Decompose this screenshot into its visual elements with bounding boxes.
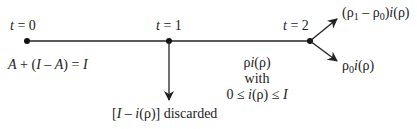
symbol-a: A [8,57,17,72]
time-eq: = 1 [160,18,182,33]
text-part: – [41,57,55,72]
time-label-t0: t = 0 [10,18,36,34]
lower-branch-arrow [310,41,337,61]
time-eq: = 2 [287,18,309,33]
text-part: (ρ) [254,55,270,70]
text-part: (ρ) [358,58,374,73]
text-part: ) = [63,57,83,72]
text-part: – [121,106,135,121]
lower-branch-label: ρ0i(ρ) [342,58,374,74]
retained-amount-label: ρi(ρ) with 0 ≤ i(ρ) ≤ I [212,55,302,103]
time-label-t2: t = 2 [283,18,309,34]
upper-branch-label: (ρ1 – ρ0)i(ρ) [342,5,410,21]
initial-identity-label: A + (I – A) = I [8,57,88,73]
discarded-label: [I – i(ρ)] discarded [112,106,217,122]
text-part: (ρ) ≤ [252,87,283,102]
text-part: discarded [160,106,217,121]
text-part: 0 ≤ [226,87,248,102]
retained-line2: with [212,71,302,87]
text-part: ρ [342,58,349,73]
node-t0-dot [24,38,30,44]
symbol-i: I [83,57,88,72]
text-part: – ρ [359,5,380,20]
retained-line1: ρi(ρ) [212,55,302,71]
time-eq: = 0 [14,18,36,33]
text-part: (ρ [342,5,354,20]
text-part: + ( [17,57,37,72]
retained-line3: 0 ≤ i(ρ) ≤ I [212,87,302,103]
text-part: (ρ) [393,5,409,20]
text-part: (ρ) [139,106,155,121]
time-label-t1: t = 1 [156,18,182,34]
symbol-i: I [283,87,288,102]
upper-branch-arrow [310,19,337,41]
